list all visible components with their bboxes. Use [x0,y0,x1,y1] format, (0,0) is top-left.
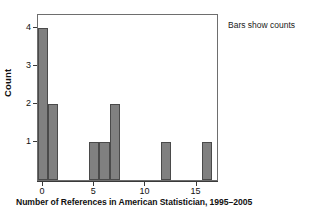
y-tick-label: 4 [26,23,31,32]
plot-frame [37,14,218,181]
plot-area [38,15,217,180]
bar [89,142,99,180]
y-tick-label: 1 [26,137,31,146]
x-axis-title: Number of References in American Statist… [16,197,306,207]
y-axis-title: Count [2,69,13,97]
bar [48,104,58,180]
x-tick-label: 10 [139,187,149,196]
y-tick-label: 2 [26,99,31,108]
bar [38,28,48,180]
bar [161,142,171,180]
bar [110,104,120,180]
chart-figure: Count 1234 051015 Number of References i… [0,0,310,217]
x-tick-label: 5 [91,187,96,196]
bar [99,142,109,180]
x-tick-label: 0 [40,187,45,196]
x-tick-label: 15 [191,187,201,196]
y-axis: Count 1234 [0,0,37,217]
y-tick-label: 3 [26,61,31,70]
chart-annotation: Bars show counts [228,20,295,30]
x-axis-line [37,181,218,182]
bar [202,142,212,180]
